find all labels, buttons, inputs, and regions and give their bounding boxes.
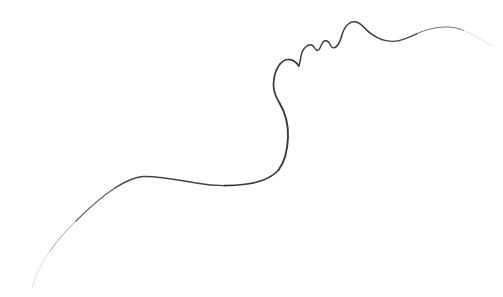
artwork-canvas	[0, 0, 503, 297]
line-drawing-svg	[0, 0, 503, 297]
canvas-background	[0, 0, 503, 297]
